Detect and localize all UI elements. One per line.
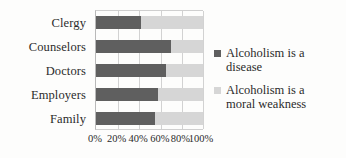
legend-entry-disease: Alcoholism is a disease (214, 46, 344, 74)
xtick-label-0: 0% (88, 133, 102, 145)
legend-label-disease: Alcoholism is a disease (226, 46, 304, 74)
legend-label-moral-weakness: Alcoholism is a moral weakness (226, 83, 306, 111)
bar-segment-moral-weakness (171, 40, 203, 53)
bar-segment-disease (96, 40, 171, 53)
bar-row-clergy (96, 11, 203, 35)
legend-swatch-icon (214, 87, 221, 94)
legend-entry-moral-weakness: Alcoholism is a moral weakness (214, 83, 344, 111)
category-label-family: Family (0, 113, 86, 125)
bar-segment-disease (96, 16, 141, 29)
category-label-clergy: Clergy (0, 17, 86, 29)
xtick-label-100: 100% (189, 133, 214, 145)
x-axis-tick-labels: 0% 20% 40% 60% 80% 100% (95, 133, 203, 147)
bar-row-family (96, 107, 203, 131)
bar-segment-moral-weakness (166, 64, 203, 77)
plot-area (95, 10, 203, 130)
category-label-doctors: Doctors (0, 65, 86, 77)
xtick-label-80: 80% (171, 133, 190, 145)
bar-segment-moral-weakness (155, 112, 203, 125)
stacked-bar-chart: Clergy Counselors Doctors Employers Fami… (0, 0, 346, 158)
bar-segment-moral-weakness (158, 88, 203, 101)
category-label-employers: Employers (0, 89, 86, 101)
legend-swatch-icon (214, 50, 221, 57)
bar-segment-disease (96, 64, 166, 77)
legend-label-line2: disease (226, 60, 262, 74)
xtick-label-60: 60% (150, 133, 169, 145)
category-axis-labels: Clergy Counselors Doctors Employers Fami… (0, 12, 89, 130)
category-label-counselors: Counselors (0, 41, 86, 53)
bar-segment-disease (96, 112, 155, 125)
chart-legend: Alcoholism is a disease Alcoholism is a … (214, 46, 344, 120)
legend-label-line1: Alcoholism is a (226, 46, 304, 60)
xtick-label-40: 40% (129, 133, 148, 145)
bar-row-employers (96, 83, 203, 107)
bar-segment-moral-weakness (141, 16, 203, 29)
gridline-100 (203, 11, 204, 129)
bar-segment-disease (96, 88, 158, 101)
legend-label-line1: Alcoholism is a (226, 83, 304, 97)
legend-label-line2: moral weakness (226, 97, 306, 111)
bar-row-counselors (96, 35, 203, 59)
bar-row-doctors (96, 59, 203, 83)
xtick-label-20: 20% (107, 133, 126, 145)
